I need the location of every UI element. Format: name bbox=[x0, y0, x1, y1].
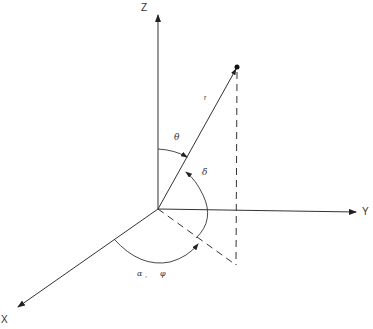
spherical-coordinates-diagram: Z Y X r θ δ α , φ bbox=[0, 0, 373, 329]
z-axis-label: Z bbox=[141, 3, 147, 13]
alpha-phi-separator: , bbox=[145, 271, 147, 278]
alpha-label: α bbox=[137, 270, 142, 278]
alpha-phi-arc bbox=[114, 239, 198, 263]
theta-arc bbox=[158, 149, 187, 157]
x-axis bbox=[18, 209, 158, 307]
y-axis bbox=[158, 209, 356, 212]
r-label: r bbox=[204, 94, 206, 101]
x-axis-label: X bbox=[1, 315, 8, 325]
theta-label: θ bbox=[174, 133, 179, 142]
point bbox=[235, 65, 240, 70]
phi-label: φ bbox=[160, 270, 166, 278]
delta-label: δ bbox=[202, 168, 207, 177]
y-axis-label: Y bbox=[362, 207, 369, 217]
r-vector bbox=[158, 69, 236, 209]
vertical-projection-line bbox=[236, 72, 237, 265]
diagram-svg bbox=[0, 0, 373, 329]
delta-arc bbox=[186, 172, 208, 238]
